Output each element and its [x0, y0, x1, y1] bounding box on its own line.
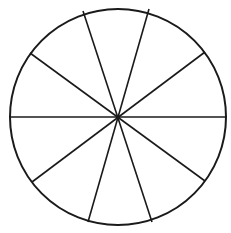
sector-circle-diagram: [0, 0, 231, 233]
center-point: [116, 115, 120, 119]
